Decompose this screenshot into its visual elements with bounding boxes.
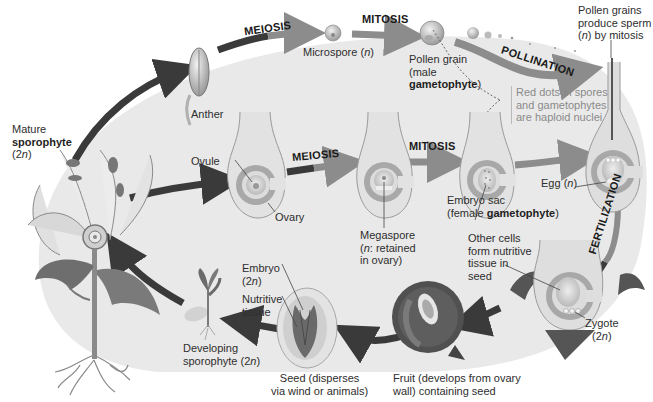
process-mitosis-mid: MITOSIS: [409, 140, 455, 152]
label-zygote: Zygote (2n): [585, 317, 619, 342]
angiosperm-life-cycle-diagram: MEIOSIS MITOSIS POLLINATION MEIOSIS MITO…: [0, 0, 653, 402]
label-other-cells: Other cells form nutritive tissue in see…: [468, 232, 532, 282]
label-seed: Seed (disperses via wind or animals): [271, 372, 368, 397]
label-developing-sporophyte: Developing sporophyte (2n): [183, 342, 260, 367]
label-nutritive-tissue: Nutritive tissue: [242, 293, 282, 318]
process-mitosis-top: MITOSIS: [362, 13, 408, 25]
label-pollen-grain: Pollen grain (male gametophyte): [409, 53, 481, 91]
label-anther: Anther: [191, 108, 223, 121]
label-mature-sporophyte: Mature sporophyte (2n): [12, 123, 72, 161]
label-megaspore: Megaspore (n: retained in ovary): [360, 229, 416, 267]
label-egg: Egg (n): [541, 177, 577, 190]
label-embryo: Embryo (2n): [242, 262, 280, 287]
label-microspore: Microspore (n): [303, 46, 374, 59]
arrow-mitosis-top: [352, 34, 405, 36]
microspore: [325, 25, 341, 41]
note-haploid-nuclei: Red dots in spores and gametophytes are …: [511, 86, 608, 124]
label-pollen-grains-produce-sperm: Pollen grains produce sperm (n) by mitos…: [578, 4, 651, 42]
label-ovary: Ovary: [275, 211, 304, 224]
arrow-meiosis-top: [218, 33, 305, 50]
label-ovule: Ovule: [191, 155, 220, 168]
label-fruit: Fruit (develops from ovary wall) contain…: [393, 372, 521, 397]
label-embryo-sac: Embryo sac (female gametophyte): [447, 194, 559, 219]
